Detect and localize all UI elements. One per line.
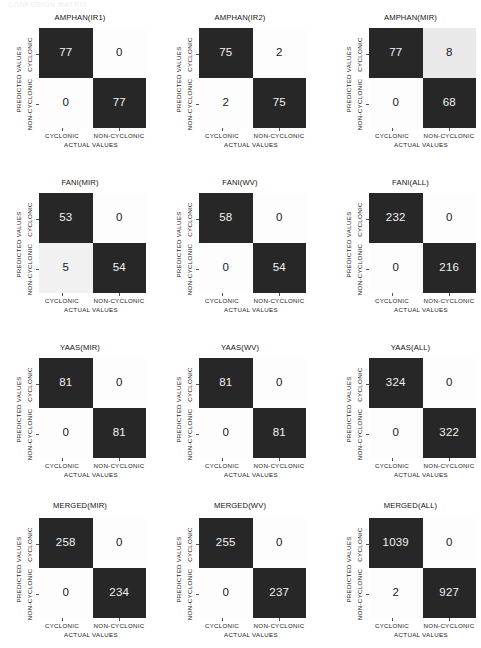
y-tick-label: CYCLONIC	[184, 519, 195, 569]
panel-title: YAAS(MIR)	[0, 343, 160, 352]
matrix-cell: 0	[199, 408, 253, 458]
matrix-cell: 0	[423, 518, 477, 568]
y-tick-label-text: NON-CYCLONIC	[26, 78, 33, 129]
matrix-cells: 810081	[39, 358, 146, 458]
y-tick-label: CYCLONIC	[24, 519, 35, 569]
x-tick-mark	[279, 458, 280, 461]
x-axis-label: ACTUAL VALUES	[196, 631, 306, 638]
x-tick-mark	[222, 128, 223, 131]
confusion-matrix-grid: AMPHAN(IR1)PREDICTED VALUESCYCLONICNON-C…	[0, 9, 481, 648]
y-axis-label: PREDICTED VALUES	[173, 359, 183, 459]
x-tick-mark	[62, 128, 63, 131]
x-tick-mark	[392, 128, 393, 131]
matrix-cell: 75	[253, 78, 307, 128]
matrix-cell: 0	[253, 518, 307, 568]
y-tick-label: CYCLONIC	[24, 194, 35, 244]
matrix-cell: 0	[253, 193, 307, 243]
panel-title: YAAS(ALL)	[320, 343, 481, 352]
matrix-cell: 0	[39, 408, 93, 458]
y-tick-label-text: CYCLONIC	[186, 37, 193, 71]
y-tick-label: CYCLONIC	[184, 194, 195, 244]
y-axis-label-text: PREDICTED VALUES	[345, 211, 352, 277]
x-axis-label: ACTUAL VALUES	[36, 306, 146, 313]
y-tick-label-text: CYCLONIC	[26, 37, 33, 71]
y-tick-label: NON-CYCLONIC	[24, 409, 35, 459]
matrix-cell: 2	[253, 28, 307, 78]
y-axis-label: PREDICTED VALUES	[173, 29, 183, 129]
x-tick-mark	[222, 293, 223, 296]
panel-title: AMPHAN(IR1)	[0, 13, 160, 22]
y-axis-label-text: PREDICTED VALUES	[345, 376, 352, 442]
y-tick-label-text: CYCLONIC	[356, 37, 363, 71]
confusion-matrix-panel: MERGED(ALL)PREDICTED VALUESCYCLONICNON-C…	[320, 499, 481, 648]
y-tick-label-text: CYCLONIC	[26, 367, 33, 401]
matrix-cell: 0	[369, 243, 423, 293]
y-axis-label: PREDICTED VALUES	[343, 29, 353, 129]
y-tick-label-text: CYCLONIC	[26, 202, 33, 236]
x-tick-mark	[392, 458, 393, 461]
matrix-cells: 778068	[369, 28, 476, 128]
matrix-cell: 0	[93, 28, 147, 78]
matrix-cell: 0	[369, 78, 423, 128]
y-axis-label-text: PREDICTED VALUES	[15, 536, 22, 602]
x-tick-label: CYCLONIC	[366, 462, 418, 469]
matrix-cell: 0	[199, 243, 253, 293]
y-tick-label: CYCLONIC	[354, 194, 365, 244]
confusion-matrix-panel: YAAS(MIR)PREDICTED VALUESCYCLONICNON-CYC…	[0, 339, 160, 499]
x-tick-label: CYCLONIC	[36, 462, 88, 469]
confusion-matrix-panel: FANI(ALL)PREDICTED VALUESCYCLONICNON-CYC…	[320, 174, 481, 339]
y-tick-label-text: NON-CYCLONIC	[186, 78, 193, 129]
confusion-matrix-panel: YAAS(WV)PREDICTED VALUESCYCLONICNON-CYCL…	[160, 339, 320, 499]
confusion-matrix-panel: FANI(WV)PREDICTED VALUESCYCLONICNON-CYCL…	[160, 174, 320, 339]
y-tick-label: NON-CYCLONIC	[24, 569, 35, 619]
matrix-cell: 68	[423, 78, 477, 128]
x-tick-mark	[119, 458, 120, 461]
matrix-cell: 0	[253, 358, 307, 408]
y-tick-label: NON-CYCLONIC	[184, 569, 195, 619]
y-tick-label: CYCLONIC	[184, 29, 195, 79]
x-tick-label: CYCLONIC	[196, 297, 248, 304]
y-tick-label-text: NON-CYCLONIC	[186, 568, 193, 619]
matrix-cells: 580054	[199, 193, 306, 293]
y-tick-label-text: NON-CYCLONIC	[26, 243, 33, 294]
matrix-cells: 530554	[39, 193, 146, 293]
y-tick-label: CYCLONIC	[24, 29, 35, 79]
x-tick-mark	[449, 618, 450, 621]
x-tick-label: CYCLONIC	[366, 132, 418, 139]
x-tick-label: NON-CYCLONIC	[88, 622, 150, 629]
matrix-cells: 25800234	[39, 518, 146, 618]
matrix-cells: 23200216	[369, 193, 476, 293]
matrix-cell: 5	[39, 243, 93, 293]
x-axis-label: ACTUAL VALUES	[36, 631, 146, 638]
matrix-cells: 770077	[39, 28, 146, 128]
matrix-cells: 25500237	[199, 518, 306, 618]
confusion-matrix-panel: AMPHAN(MIR)PREDICTED VALUESCYCLONICNON-C…	[320, 9, 481, 174]
matrix-cells: 810081	[199, 358, 306, 458]
y-axis-label: PREDICTED VALUES	[173, 194, 183, 294]
x-tick-label: NON-CYCLONIC	[248, 297, 310, 304]
matrix-cell: 0	[93, 358, 147, 408]
matrix-cell: 81	[253, 408, 307, 458]
x-axis-label: ACTUAL VALUES	[36, 471, 146, 478]
y-axis-label-text: PREDICTED VALUES	[15, 46, 22, 112]
y-tick-label: NON-CYCLONIC	[184, 79, 195, 129]
matrix-cell: 54	[253, 243, 307, 293]
matrix-cell: 1039	[369, 518, 423, 568]
panel-title: MERGED(ALL)	[320, 501, 481, 510]
scan-artifact-text: CONFUSION MATRIX	[8, 0, 188, 9]
x-tick-mark	[279, 293, 280, 296]
matrix-cell: 54	[93, 243, 147, 293]
matrix-cell: 0	[199, 568, 253, 618]
matrix-cell: 927	[423, 568, 477, 618]
matrix-cell: 77	[93, 78, 147, 128]
matrix-cell: 0	[423, 358, 477, 408]
matrix-cell: 0	[39, 568, 93, 618]
matrix-cell: 324	[369, 358, 423, 408]
matrix-cell: 77	[39, 28, 93, 78]
x-tick-mark	[62, 618, 63, 621]
matrix-cell: 81	[93, 408, 147, 458]
x-tick-mark	[62, 458, 63, 461]
y-axis-label: PREDICTED VALUES	[343, 519, 353, 619]
matrix-cell: 0	[93, 518, 147, 568]
x-tick-mark	[392, 618, 393, 621]
